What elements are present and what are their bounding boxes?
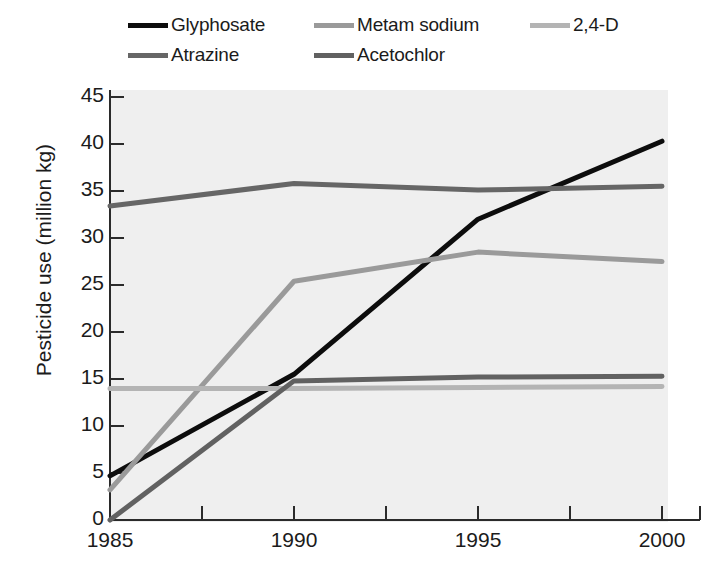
x-tick-label: 1985 xyxy=(70,528,150,552)
x-axis-tick-labels: 1985199019952000 xyxy=(0,0,721,571)
pesticide-use-line-chart: Glyphosate Metam sodium 2,4-D Atrazine A… xyxy=(0,0,721,571)
x-tick-label: 2000 xyxy=(622,528,702,552)
y-axis-title: Pesticide use (million kg) xyxy=(32,70,56,450)
x-tick-label: 1990 xyxy=(254,528,334,552)
x-tick-label: 1995 xyxy=(438,528,518,552)
